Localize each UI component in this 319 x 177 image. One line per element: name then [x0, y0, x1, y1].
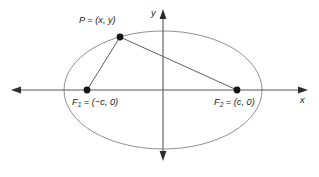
- focus2-label: F2 = (c, 0): [214, 97, 255, 108]
- y-axis-label: y: [150, 7, 157, 18]
- point-p-label: P = (x, y): [79, 15, 116, 25]
- focus2-coords: = (c, 0): [223, 97, 254, 107]
- focus1-coords: = (−c, 0): [81, 97, 118, 107]
- segment-p-to-focus2: [120, 37, 237, 90]
- x-axis-right-arrow-icon: [298, 86, 308, 93]
- point-p-dot: [117, 34, 124, 41]
- point-focus2-dot: [234, 87, 241, 94]
- point-focus1-dot: [84, 87, 91, 94]
- y-axis-down-arrow-icon: [160, 151, 167, 161]
- y-axis-up-arrow-icon: [160, 9, 167, 19]
- x-axis-label: x: [299, 94, 305, 105]
- segment-focus1-to-p: [87, 37, 120, 90]
- focus1-label: F1 = (−c, 0): [72, 97, 118, 108]
- ellipse-diagram-canvas: P = (x, y) F1 = (−c, 0) F2 = (c, 0) x y: [0, 0, 319, 177]
- x-axis-left-arrow-icon: [11, 86, 21, 93]
- ellipse-figure: P = (x, y) F1 = (−c, 0) F2 = (c, 0) x y: [0, 0, 319, 177]
